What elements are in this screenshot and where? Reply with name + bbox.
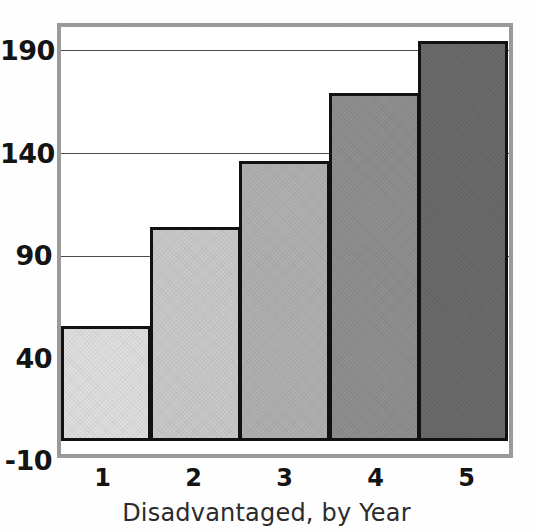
clipped-title-fragment bbox=[300, 0, 510, 8]
x-axis-label: Disadvantaged, by Year bbox=[0, 501, 533, 525]
bar-year-2[interactable] bbox=[150, 227, 241, 441]
x-tick-3: 3 bbox=[239, 466, 330, 490]
bar-year-5[interactable] bbox=[418, 41, 508, 441]
x-tick-5: 5 bbox=[421, 466, 512, 490]
x-tick-4: 4 bbox=[330, 466, 421, 490]
bar-year-3[interactable] bbox=[239, 161, 330, 441]
y-tick-neg10: -10 bbox=[0, 447, 52, 474]
y-tick-40: 40 bbox=[0, 345, 52, 372]
y-tick-90: 90 bbox=[0, 242, 52, 269]
x-tick-2: 2 bbox=[148, 466, 239, 490]
bar-year-1[interactable] bbox=[61, 326, 151, 441]
y-tick-190: 190 bbox=[0, 37, 52, 64]
bar-year-4[interactable] bbox=[329, 93, 420, 441]
plot-area bbox=[61, 27, 509, 454]
plot-frame bbox=[57, 23, 513, 458]
x-tick-1: 1 bbox=[57, 466, 148, 490]
bar-chart-figure: 190 140 90 40 -10 1 2 3 4 5 bbox=[0, 0, 533, 532]
y-tick-140: 140 bbox=[0, 140, 52, 167]
